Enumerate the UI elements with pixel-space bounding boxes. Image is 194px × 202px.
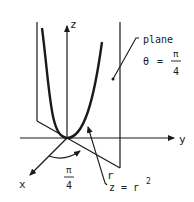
- theta-denominator: 4: [173, 66, 179, 77]
- y-axis-label: y: [179, 133, 186, 146]
- parabola-curve: [42, 28, 102, 138]
- r-label: r: [107, 169, 114, 182]
- plane-leader: [113, 38, 139, 79]
- z-axis-label: z: [70, 18, 77, 31]
- angle-denominator: 4: [66, 180, 72, 191]
- plane-leader-dot: [112, 78, 115, 81]
- x-axis-label: x: [19, 178, 26, 191]
- angle-numerator: π: [66, 165, 72, 175]
- theta-numerator: π: [173, 49, 179, 59]
- curve-leader: [88, 127, 107, 185]
- x-axis: [30, 138, 67, 175]
- plane-label: plane: [143, 34, 173, 45]
- theta-equals: =: [157, 56, 163, 67]
- curve-equation-exponent: 2: [146, 177, 151, 186]
- curve-equation: z = r: [109, 182, 139, 193]
- theta-symbol: θ: [143, 56, 149, 67]
- plane-parabola-diagram: z y x plane θ = π 4 π 4 r z = r 2: [0, 0, 194, 202]
